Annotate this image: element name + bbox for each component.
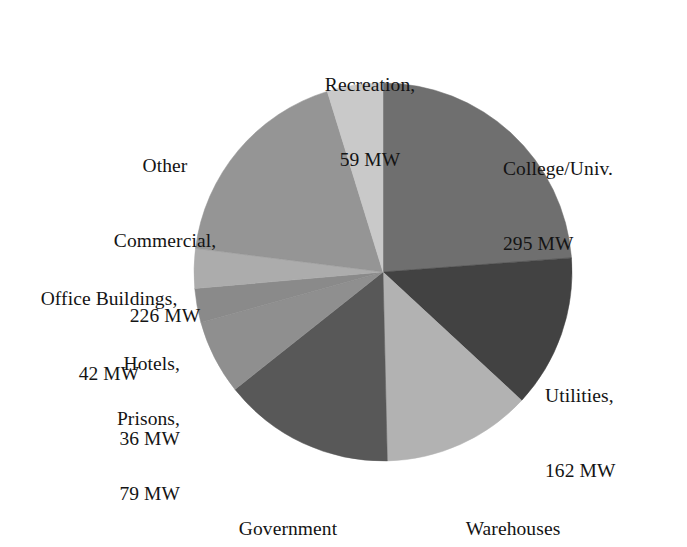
slice-label-other-commercial-line1: Other — [85, 153, 245, 178]
slice-label-government: Government 182 MW — [203, 466, 373, 547]
slice-label-college-univ-line2: 295 MW — [503, 231, 683, 256]
slice-label-recreation-line2: 59 MW — [275, 147, 465, 172]
slice-label-college-univ: College/Univ. 295 MW — [503, 106, 683, 306]
pie-chart: Recreation, 59 MW College/Univ. 295 MW U… — [0, 0, 687, 547]
slice-label-other-commercial: Other Commercial, 226 MW — [85, 103, 245, 378]
slice-label-recreation: Recreation, 59 MW — [275, 22, 465, 222]
slice-label-other-commercial-line2: Commercial, — [85, 228, 245, 253]
slice-label-warehouses: Warehouses 158 MW — [428, 466, 598, 547]
slice-label-recreation-line1: Recreation, — [275, 72, 465, 97]
slice-label-utilities-line1: Utilities, — [545, 383, 685, 408]
slice-label-other-commercial-line3: 226 MW — [85, 303, 245, 328]
slice-label-college-univ-line1: College/Univ. — [503, 156, 683, 181]
slice-label-government-line1: Government — [203, 516, 373, 541]
slice-label-warehouses-line1: Warehouses — [428, 516, 598, 541]
